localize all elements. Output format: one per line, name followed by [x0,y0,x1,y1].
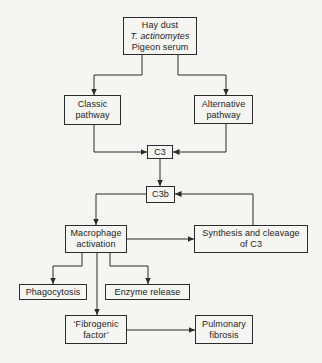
node-label: Classic [78,99,108,110]
node-fibrogenic-factor: ‘Fibrogenic factor’ [65,315,127,344]
node-label: activation [76,239,115,250]
edge-macrophage-to-phagocytosis [53,253,82,284]
node-label: Synthesis and cleavage [202,228,299,239]
edge-c3b-to-macrophage [96,194,146,225]
node-label: fibrosis [209,330,238,341]
node-label: Pigeon serum [132,42,189,53]
node-enzyme-release: Enzyme release [105,284,190,300]
flowchart-canvas: Hay dust T. actinomytes Pigeon serum Cla… [0,0,322,363]
node-alternative-pathway: Alternative pathway [194,95,253,124]
node-label-italic: T. actinomytes [130,31,189,42]
node-c3: C3 [147,145,173,159]
node-label: Macrophage [70,228,121,239]
node-macrophage-activation: Macrophage activation [65,225,127,253]
edge-macrophage-to-enzyme [110,253,148,284]
edge-alternative-to-c3 [173,124,226,152]
node-label: Hay dust [142,20,178,31]
node-label: pathway [75,110,109,121]
node-label: factor’ [83,330,109,341]
edge-source-to-alternative [178,55,226,95]
node-label: ‘Fibrogenic [73,319,118,330]
node-classic-pathway: Classic pathway [64,95,121,125]
node-hay-dust-source: Hay dust T. actinomytes Pigeon serum [123,17,197,55]
node-label: Enzyme release [115,287,181,298]
node-label: Alternative [202,99,246,110]
edge-classic-to-c3 [94,125,147,152]
node-synthesis-cleavage-c3: Synthesis and cleavage of C3 [194,225,308,253]
node-label: of C3 [240,239,262,250]
node-label: Phagocytosis [26,287,81,298]
node-c3b: C3b [146,186,175,203]
node-pulmonary-fibrosis: Pulmonary fibrosis [195,315,253,344]
node-phagocytosis: Phagocytosis [19,284,87,300]
node-label: C3 [154,147,166,158]
node-label: Pulmonary [202,319,246,330]
node-label: pathway [206,110,240,121]
edge-synthesis-to-c3b [175,194,253,225]
node-label: C3b [152,189,169,200]
edge-source-to-classic [94,55,142,95]
